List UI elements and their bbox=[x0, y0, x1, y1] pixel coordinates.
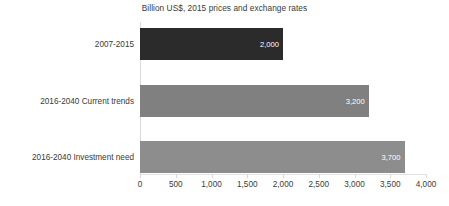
tick-label: 0 bbox=[138, 180, 143, 189]
category-label: 2016-2040 Current trends bbox=[4, 85, 134, 117]
tick-mark bbox=[283, 175, 284, 178]
tick-mark bbox=[176, 175, 177, 178]
category-label: 2007-2015 bbox=[4, 28, 134, 60]
bar[interactable]: 3,200 bbox=[140, 85, 369, 117]
bar-chart: Billion US$, 2015 prices and exchange ra… bbox=[0, 0, 449, 206]
category-label-text: 2007-2015 bbox=[95, 40, 134, 49]
tick-mark bbox=[247, 175, 248, 178]
tick-label: 3,000 bbox=[344, 180, 365, 189]
bar-value-label: 2,000 bbox=[260, 40, 279, 49]
tick-mark bbox=[426, 175, 427, 178]
tick-label: 1,000 bbox=[201, 180, 222, 189]
tick-mark bbox=[319, 175, 320, 178]
category-label-text: 2016-2040 Investment need bbox=[32, 153, 134, 162]
tick-label: 1,500 bbox=[237, 180, 258, 189]
tick-mark bbox=[212, 175, 213, 178]
category-label-text: 2016-2040 Current trends bbox=[40, 97, 134, 106]
tick-mark bbox=[140, 175, 141, 178]
tick-label: 2,500 bbox=[309, 180, 330, 189]
bar-row: 2016-2040 Investment need3,700 bbox=[140, 141, 426, 173]
tick-label: 4,000 bbox=[416, 180, 437, 189]
plot-area: 2007-20152,0002016-2040 Current trends3,… bbox=[140, 22, 426, 174]
chart-title: Billion US$, 2015 prices and exchange ra… bbox=[0, 3, 449, 13]
tick-label: 3,500 bbox=[380, 180, 401, 189]
bar[interactable]: 2,000 bbox=[140, 28, 283, 60]
tick-label: 500 bbox=[169, 180, 183, 189]
bar-value-label: 3,200 bbox=[346, 97, 365, 106]
bar[interactable]: 3,700 bbox=[140, 141, 405, 173]
tick-mark bbox=[355, 175, 356, 178]
tick-label: 2,000 bbox=[273, 180, 294, 189]
bar-row: 2007-20152,000 bbox=[140, 28, 426, 60]
bar-row: 2016-2040 Current trends3,200 bbox=[140, 85, 426, 117]
bar-value-label: 3,700 bbox=[382, 153, 401, 162]
category-label: 2016-2040 Investment need bbox=[4, 141, 134, 173]
tick-mark bbox=[390, 175, 391, 178]
